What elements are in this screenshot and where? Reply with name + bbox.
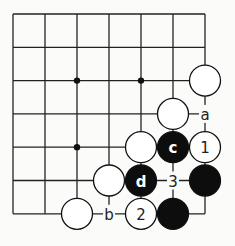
go-board-diagram: a3bc1d2 — [0, 0, 235, 246]
black-stone — [158, 198, 189, 229]
black-stone — [190, 165, 221, 196]
white-stone — [126, 132, 157, 163]
star-point — [74, 77, 80, 83]
white-stone — [190, 65, 221, 96]
star-point — [74, 144, 80, 150]
star-point — [138, 77, 144, 83]
stone-label-d: d — [136, 173, 147, 191]
stone-label-2: 2 — [136, 206, 146, 224]
point-label-3: 3 — [168, 173, 178, 191]
point-label-a: a — [200, 106, 209, 124]
white-stone — [94, 165, 125, 196]
point-label-b: b — [104, 206, 114, 224]
stone-label-1: 1 — [200, 139, 210, 157]
white-stone — [158, 98, 189, 129]
stone-label-c: c — [169, 139, 178, 157]
white-stone — [62, 198, 93, 229]
